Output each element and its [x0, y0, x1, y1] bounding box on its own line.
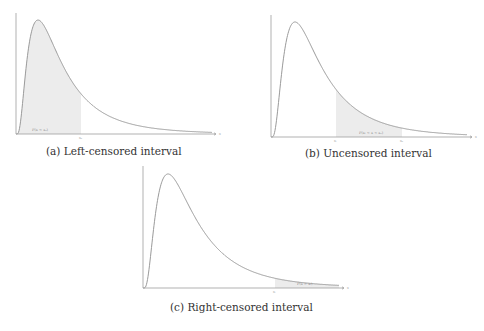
- panel-right-censored: xxₗP(x > xₗ) (c) Right-censored interval: [0, 0, 484, 331]
- density-curve: [143, 174, 339, 288]
- tick-label: xₗ: [273, 290, 276, 294]
- axes: [143, 166, 344, 288]
- probability-area-label: P(x > xₗ): [297, 282, 313, 286]
- caption-right-censored: (c) Right-censored interval: [170, 301, 313, 313]
- x-axis-label: x: [347, 286, 349, 290]
- chart-right-censored: xxₗP(x > xₗ): [0, 0, 484, 300]
